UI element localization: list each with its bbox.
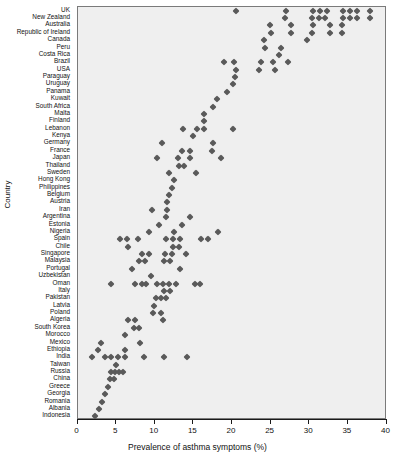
- data-point: [221, 59, 228, 66]
- data-point: [232, 66, 239, 73]
- data-point: [121, 354, 128, 361]
- data-point: [201, 118, 208, 125]
- data-point: [354, 15, 361, 22]
- data-point: [272, 66, 279, 73]
- data-point: [276, 51, 283, 58]
- data-point: [282, 15, 289, 22]
- data-point: [178, 147, 185, 154]
- data-point: [163, 295, 170, 302]
- x-axis-tick-label: 30: [304, 426, 313, 435]
- data-point: [165, 169, 172, 176]
- x-axis-tick-label: 10: [149, 426, 158, 435]
- data-point: [258, 59, 265, 66]
- x-axis-tick: [347, 419, 348, 424]
- data-point: [177, 236, 184, 243]
- data-point: [338, 29, 345, 36]
- data-point: [192, 169, 199, 176]
- data-point: [322, 15, 329, 22]
- data-point: [89, 354, 96, 361]
- data-point: [288, 29, 295, 36]
- y-axis-label: Indonesia: [42, 412, 70, 418]
- data-point: [94, 346, 101, 353]
- data-point: [121, 332, 128, 339]
- data-point: [131, 280, 138, 287]
- data-point: [137, 339, 144, 346]
- data-point: [224, 88, 231, 95]
- data-point: [110, 376, 117, 383]
- data-point: [150, 302, 157, 309]
- x-axis-tick-label: 20: [227, 426, 236, 435]
- x-axis-tick: [77, 419, 78, 424]
- data-point: [148, 206, 155, 213]
- data-point: [189, 133, 196, 140]
- data-point: [215, 228, 222, 235]
- data-point: [209, 140, 216, 147]
- data-point: [231, 59, 238, 66]
- data-point: [145, 251, 152, 258]
- data-point: [208, 147, 215, 154]
- data-point: [205, 236, 212, 243]
- x-axis-tick-label: 40: [381, 426, 390, 435]
- data-point: [181, 162, 188, 169]
- data-point: [159, 140, 166, 147]
- data-point: [123, 236, 130, 243]
- data-point: [262, 44, 269, 51]
- data-point: [143, 280, 150, 287]
- data-point: [167, 287, 174, 294]
- x-axis-tick-label: 0: [74, 426, 78, 435]
- data-point: [285, 59, 292, 66]
- data-point: [229, 81, 236, 88]
- data-point: [168, 184, 175, 191]
- data-point: [136, 324, 143, 331]
- data-point: [184, 354, 191, 361]
- chart-root: Country UKNew ZealandAustraliaRepublic o…: [0, 0, 395, 468]
- data-point: [171, 228, 178, 235]
- data-point: [162, 214, 169, 221]
- data-point: [283, 7, 290, 14]
- data-point: [170, 236, 177, 243]
- x-axis-title: Prevalence of asthma symptoms (%): [0, 442, 395, 452]
- data-point: [229, 125, 236, 132]
- data-point: [310, 22, 317, 29]
- data-point: [113, 361, 120, 368]
- data-point: [197, 280, 204, 287]
- data-point: [120, 369, 127, 376]
- data-point: [114, 354, 121, 361]
- data-point: [98, 339, 105, 346]
- data-point: [218, 155, 225, 162]
- data-point: [182, 251, 189, 258]
- x-axis-tick-label: 35: [342, 426, 351, 435]
- data-point: [187, 155, 194, 162]
- data-point: [308, 15, 315, 22]
- data-point: [198, 236, 205, 243]
- data-point: [269, 59, 276, 66]
- data-point: [288, 22, 295, 29]
- data-point: [99, 398, 106, 405]
- data-point: [201, 125, 208, 132]
- data-point: [214, 96, 221, 103]
- data-point: [327, 29, 334, 36]
- data-point: [338, 22, 345, 29]
- data-point: [354, 7, 361, 14]
- data-point: [174, 155, 181, 162]
- data-point: [132, 317, 139, 324]
- data-point: [164, 199, 171, 206]
- x-axis-tick: [192, 419, 193, 424]
- data-point: [160, 354, 167, 361]
- data-point: [108, 280, 115, 287]
- data-point: [187, 147, 194, 154]
- data-point: [232, 7, 239, 14]
- data-point: [134, 236, 141, 243]
- plot-area: [77, 6, 386, 419]
- x-axis-tick: [308, 419, 309, 424]
- data-point: [129, 265, 136, 272]
- data-point: [145, 228, 152, 235]
- data-point: [116, 236, 123, 243]
- x-axis-tick: [386, 419, 387, 424]
- x-axis-tick-label: 25: [265, 426, 274, 435]
- data-point: [177, 265, 184, 272]
- data-point: [164, 206, 171, 213]
- data-point: [366, 7, 373, 14]
- data-point: [156, 221, 163, 228]
- data-point: [327, 22, 334, 29]
